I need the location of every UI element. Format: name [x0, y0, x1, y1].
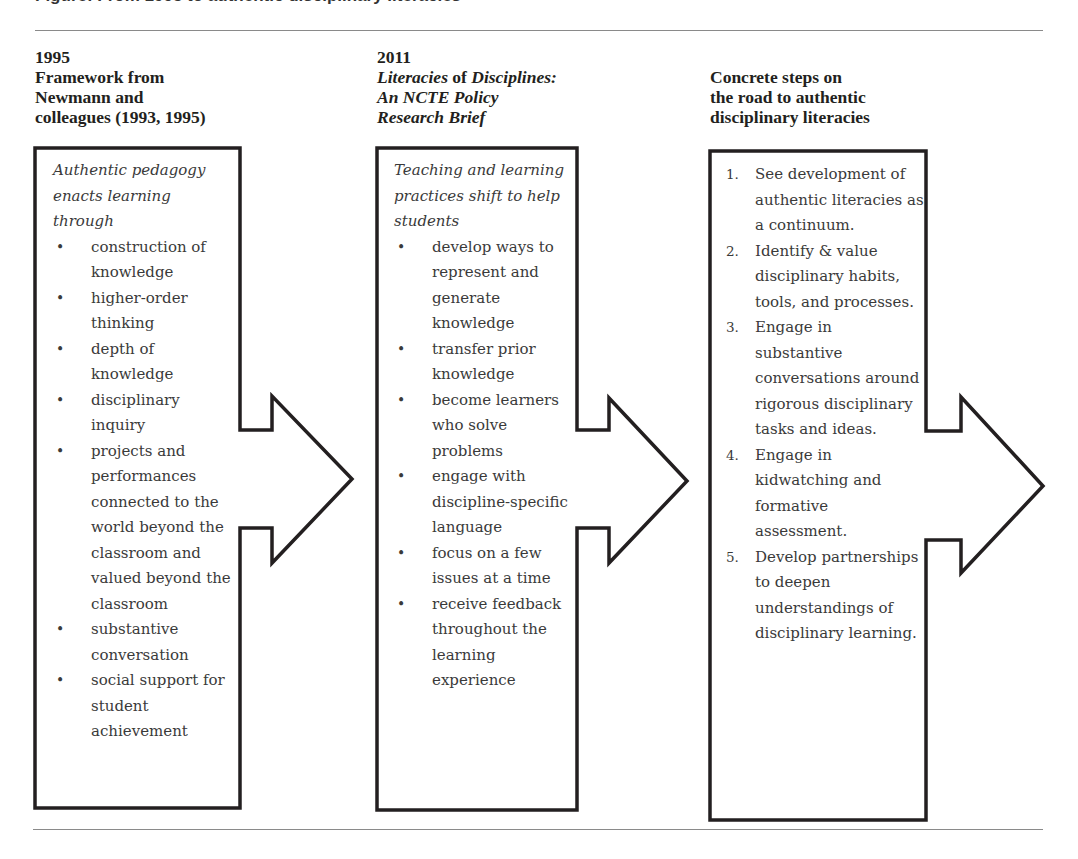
list-item: •focus on a few issues at a time [394, 541, 572, 592]
column-header-concrete-steps: Concrete steps on the road to authentic … [710, 67, 870, 127]
bullet-list: •construction of knowledge •higher-order… [53, 235, 233, 745]
bullet-list: •develop ways to represent and generate … [394, 235, 572, 694]
list-item-text: Engage in kidwatching and formative asse… [755, 446, 881, 541]
column-title-line: An NCTE Policy [377, 87, 557, 107]
list-item-text: projects and performances connected to t… [91, 442, 231, 613]
list-item-text: transfer prior knowledge [432, 340, 536, 384]
list-item-text: Develop partnerships to deepen understan… [755, 548, 918, 643]
bullet-icon: • [397, 541, 405, 567]
bullet-icon: • [397, 592, 405, 618]
list-item: •engage with discipline-specific languag… [394, 464, 572, 541]
list-item: •develop ways to represent and generate … [394, 235, 572, 337]
bullet-icon: • [56, 617, 64, 643]
step-number: 2. [726, 239, 739, 265]
list-item-text: Engage in substantive conversations arou… [755, 318, 919, 438]
bullet-icon: • [56, 439, 64, 465]
list-item: •higher-order thinking [53, 286, 233, 337]
list-item: •projects and performances connected to … [53, 439, 233, 618]
list-item-text: disciplinary inquiry [91, 391, 180, 435]
bullet-icon: • [56, 337, 64, 363]
box-intro: Teaching and learning practices shift to… [394, 158, 572, 235]
column-title-line: Newmann and [35, 87, 206, 107]
column-title-line: the road to authentic [710, 87, 870, 107]
step-number: 5. [726, 545, 739, 571]
list-item: 3.Engage in substantive conversations ar… [726, 315, 924, 443]
column-title-line: disciplinary literacies [710, 107, 870, 127]
list-item-text: depth of knowledge [91, 340, 173, 384]
bullet-icon: • [56, 388, 64, 414]
box-intro: Authentic pedagogy enacts learning throu… [53, 158, 233, 235]
step-number: 1. [726, 162, 739, 188]
bullet-icon: • [397, 464, 405, 490]
list-item: •become learners who solve problems [394, 388, 572, 465]
column-header-2011: 2011 Literacies of Disciplines: An NCTE … [377, 47, 557, 127]
list-item: •social support for student achievement [53, 668, 233, 745]
column-title-line: Framework from [35, 67, 206, 87]
title-italic: An NCTE Policy [377, 87, 499, 107]
list-item: •substantive conversation [53, 617, 233, 668]
list-item: •depth of knowledge [53, 337, 233, 388]
list-item: 5.Develop partnerships to deepen underst… [726, 545, 924, 647]
title-italic: Literacies [377, 67, 452, 87]
bullet-icon: • [397, 337, 405, 363]
list-item: •receive feedback throughout the learnin… [394, 592, 572, 694]
list-item-text: See development of authentic literacies … [755, 165, 924, 234]
list-item: 4.Engage in kidwatching and formative as… [726, 443, 924, 545]
title-italic: Disciplines: [467, 67, 557, 87]
list-item-text: Identify & value disciplinary habits, to… [755, 242, 914, 311]
list-item-text: higher-order thinking [91, 289, 188, 333]
column-title-line: colleagues (1993, 1995) [35, 107, 206, 127]
title-upright: of [452, 67, 467, 87]
list-item-text: social support for student achievement [91, 671, 225, 740]
numbered-list: 1.See development of authentic literacie… [726, 162, 924, 647]
box-content-1995: Authentic pedagogy enacts learning throu… [53, 158, 233, 745]
bullet-icon: • [56, 668, 64, 694]
column-title-line: Research Brief [377, 107, 557, 127]
step-number: 3. [726, 315, 739, 341]
list-item: •disciplinary inquiry [53, 388, 233, 439]
bullet-icon: • [56, 235, 64, 261]
list-item: 2.Identify & value disciplinary habits, … [726, 239, 924, 316]
column-title-line: Literacies of Disciplines: [377, 67, 557, 87]
list-item: •construction of knowledge [53, 235, 233, 286]
column-year: 1995 [35, 47, 206, 67]
list-item-text: construction of knowledge [91, 238, 206, 282]
column-header-1995: 1995 Framework from Newmann and colleagu… [35, 47, 206, 127]
list-item-text: focus on a few issues at a time [432, 544, 551, 588]
list-item: 1.See development of authentic literacie… [726, 162, 924, 239]
box-content-2011: Teaching and learning practices shift to… [394, 158, 572, 694]
bullet-icon: • [56, 286, 64, 312]
bullet-icon: • [397, 235, 405, 261]
list-item-text: receive feedback throughout the learning… [432, 595, 561, 690]
list-item-text: engage with discipline-specific language [432, 467, 568, 536]
step-number: 4. [726, 443, 739, 469]
bullet-icon: • [397, 388, 405, 414]
list-item-text: become learners who solve problems [432, 391, 559, 460]
column-title-line: Concrete steps on [710, 67, 870, 87]
box-content-concrete-steps: 1.See development of authentic literacie… [726, 162, 924, 647]
list-item: •transfer prior knowledge [394, 337, 572, 388]
column-year: 2011 [377, 47, 557, 67]
title-italic: Research Brief [377, 107, 485, 127]
list-item-text: develop ways to represent and generate k… [432, 238, 554, 333]
list-item-text: substantive conversation [91, 620, 189, 664]
